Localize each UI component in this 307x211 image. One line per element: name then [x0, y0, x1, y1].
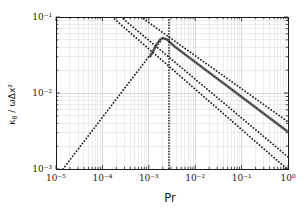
x-axis-label: Pr	[164, 191, 175, 205]
figure: Pr κθ / ωΔx² 10⁻⁵10⁻⁴10⁻³10⁻²10⁻¹10⁰10⁻¹…	[0, 0, 307, 211]
y-axis-label: κθ / ωΔx²	[6, 45, 19, 165]
y-axis-label-kappa: κ	[7, 120, 17, 125]
y-tick-label-1: 10⁻²	[0, 88, 52, 98]
x-tick-label-3: 10⁻²	[185, 173, 205, 183]
y-tick-label-0: 10⁻¹	[0, 12, 52, 22]
series-middle-guide-line	[121, 17, 288, 157]
x-tick-label-1: 10⁻⁴	[92, 173, 112, 183]
y-axis-label-subscript: θ	[11, 116, 19, 120]
x-tick-label-2: 10⁻³	[139, 173, 159, 183]
x-tick-label-5: 10⁰	[280, 173, 295, 183]
x-tick-label-0: 10⁻⁵	[46, 173, 66, 183]
x-tick-label-4: 10⁻¹	[232, 173, 252, 183]
y-tick-label-2: 10⁻³	[0, 164, 52, 174]
